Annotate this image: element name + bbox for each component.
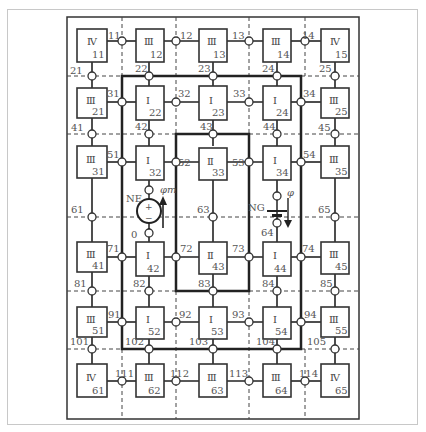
svg-text:114: 114 [299,368,318,379]
svg-text:43: 43 [200,121,213,132]
svg-text:Ⅲ: Ⅲ [86,154,96,165]
svg-text:41: 41 [92,260,105,271]
svg-text:91: 91 [108,309,121,320]
svg-text:14: 14 [277,49,290,60]
svg-text:85: 85 [320,278,333,289]
svg-text:Ⅲ: Ⅲ [329,154,339,165]
svg-text:Ⅲ: Ⅲ [144,372,154,383]
svg-text:33: 33 [233,88,246,99]
svg-text:21: 21 [92,106,105,117]
svg-text:Ⅲ: Ⅲ [207,36,217,47]
svg-text:31: 31 [107,88,120,99]
svg-text:NE: NE [126,193,142,204]
svg-text:Ⅳ: Ⅳ [330,36,341,47]
svg-text:44: 44 [263,121,276,132]
svg-text:103: 103 [189,336,208,347]
svg-text:111: 111 [115,368,134,379]
svg-text:104: 104 [256,336,275,347]
svg-text:82: 82 [133,278,146,289]
svg-text:Ⅳ: Ⅳ [330,372,341,383]
svg-text:Ⅰ: Ⅰ [273,95,277,106]
svg-text:61: 61 [92,385,105,396]
svg-text:Ⅲ: Ⅲ [329,95,339,106]
svg-text:63: 63 [197,204,210,215]
svg-text:24: 24 [262,63,275,74]
svg-text:34: 34 [303,88,316,99]
svg-text:Ⅰ: Ⅰ [146,95,150,106]
svg-text:64: 64 [261,227,274,238]
svg-text:Ⅲ: Ⅲ [86,249,96,260]
svg-text:Ⅲ: Ⅲ [329,314,339,325]
svg-text:34: 34 [276,167,289,178]
svg-text:53: 53 [232,157,245,168]
svg-text:43: 43 [212,261,225,272]
svg-text:22: 22 [135,63,148,74]
svg-text:Ⅰ: Ⅰ [273,250,277,261]
svg-text:Ⅳ: Ⅳ [86,372,97,383]
svg-text:54: 54 [303,149,316,160]
svg-text:55: 55 [335,325,348,336]
svg-text:Ⅰ: Ⅰ [146,314,150,325]
svg-text:92: 92 [179,309,192,320]
svg-text:33: 33 [212,167,225,178]
svg-text:35: 35 [335,166,348,177]
svg-text:72: 72 [180,243,193,254]
svg-text:93: 93 [232,309,245,320]
grid-diagram: Ⅳ11 Ⅲ12 Ⅲ13 Ⅲ14 Ⅳ15 Ⅲ21 Ⅰ22 Ⅰ23 Ⅰ24 Ⅲ25 … [0,0,426,432]
svg-text:62: 62 [148,385,161,396]
svg-text:32: 32 [178,88,191,99]
svg-text:45: 45 [318,122,331,133]
svg-text:Ⅲ: Ⅲ [329,249,339,260]
svg-text:51: 51 [107,149,120,160]
svg-text:Ⅱ: Ⅱ [207,156,214,167]
svg-text:63: 63 [211,385,224,396]
svg-text:51: 51 [92,325,105,336]
svg-text:13: 13 [213,49,226,60]
svg-text:21: 21 [70,65,83,76]
svg-text:52: 52 [148,326,161,337]
svg-text:31: 31 [92,166,105,177]
svg-text:12: 12 [180,30,193,41]
svg-text:Ⅰ: Ⅰ [273,155,277,166]
svg-text:105: 105 [307,336,326,347]
svg-text:Ⅲ: Ⅲ [144,36,154,47]
svg-text:φm: φm [160,184,176,195]
svg-text:24: 24 [276,107,289,118]
svg-text:23: 23 [212,107,225,118]
svg-text:84: 84 [262,278,275,289]
svg-text:Ⅰ: Ⅰ [209,95,213,106]
svg-text:32: 32 [149,167,162,178]
svg-text:+: + [145,202,153,212]
svg-text:0: 0 [131,229,137,240]
svg-text:71: 71 [107,243,120,254]
svg-text:64: 64 [275,385,288,396]
svg-text:54: 54 [275,326,288,337]
svg-text:112: 112 [170,368,189,379]
svg-text:14: 14 [302,30,315,41]
svg-text:15: 15 [335,49,348,60]
svg-text:−: − [145,213,153,223]
svg-text:65: 65 [335,385,348,396]
svg-text:23: 23 [198,63,211,74]
svg-text:45: 45 [335,261,348,272]
svg-text:44: 44 [274,263,287,274]
svg-text:Ⅳ: Ⅳ [87,36,98,47]
svg-text:42: 42 [147,263,160,274]
svg-text:Ⅰ: Ⅰ [209,314,213,325]
svg-text:61: 61 [71,204,84,215]
svg-text:83: 83 [198,278,211,289]
svg-text:113: 113 [229,368,248,379]
svg-text:52: 52 [178,157,191,168]
svg-text:25: 25 [335,106,348,117]
svg-text:Ⅲ: Ⅲ [86,95,96,106]
svg-text:101: 101 [70,336,89,347]
svg-text:11: 11 [92,49,105,60]
svg-text:102: 102 [125,336,144,347]
svg-text:73: 73 [232,243,245,254]
svg-text:φ: φ [287,187,294,198]
svg-text:Ⅲ: Ⅲ [207,372,217,383]
svg-text:13: 13 [232,30,245,41]
svg-text:94: 94 [304,309,317,320]
svg-text:11: 11 [108,30,121,41]
svg-text:25: 25 [319,63,332,74]
